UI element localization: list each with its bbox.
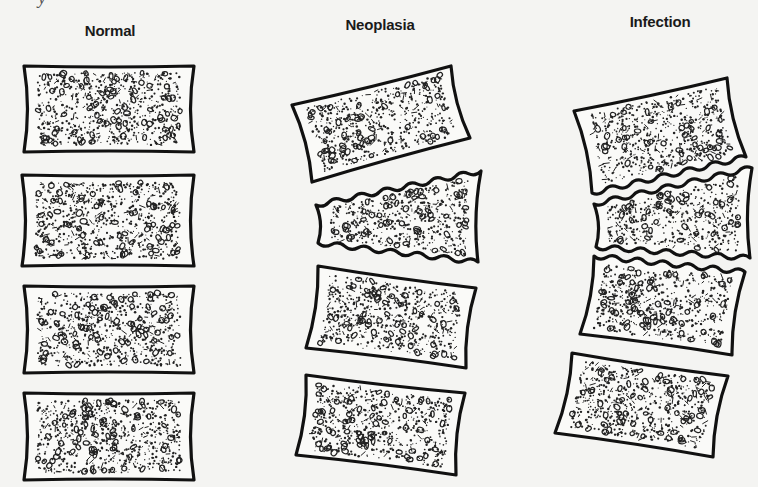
column-normal (22, 66, 194, 480)
vertebral-body-outline (316, 171, 481, 262)
vertebra-3 (580, 256, 745, 355)
column-neoplasia (292, 66, 481, 475)
vertebra-1 (24, 66, 194, 152)
spine-illustration (0, 0, 758, 487)
vertebral-body-outline (292, 66, 470, 182)
column-infection (555, 78, 752, 457)
vertebra-1 (292, 66, 470, 182)
vertebra-3 (306, 266, 476, 368)
vertebra-2 (316, 171, 481, 262)
vertebra-3 (24, 286, 194, 373)
vertebrae-comparison-figure: y Normal Neoplasia Infection (0, 0, 758, 487)
vertebral-body-outline (24, 286, 194, 373)
vertebra-4 (555, 353, 728, 457)
vertebra-2 (22, 175, 194, 266)
vertebra-4 (296, 375, 465, 475)
vertebra-4 (24, 393, 194, 480)
